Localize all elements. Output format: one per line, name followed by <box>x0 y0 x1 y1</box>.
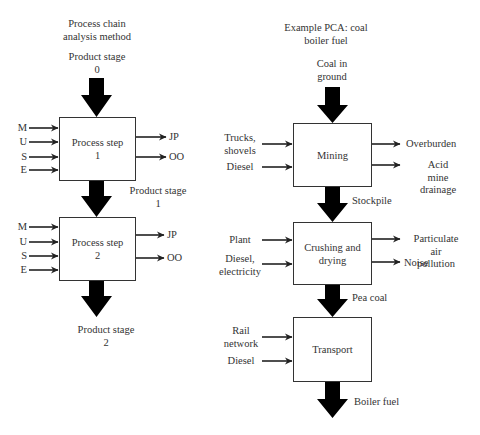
product-stage-2-label: Product stage 2 <box>78 324 135 349</box>
step2-input-s: S <box>21 250 27 263</box>
left-panel-title: Process chain analysis method <box>63 18 131 43</box>
crushing-input-plant: Plant <box>229 234 251 247</box>
boiler-fuel-label: Boiler fuel <box>354 396 399 409</box>
step2-output-arrows <box>135 235 164 258</box>
step1-input-e: E <box>21 164 27 177</box>
step2-input-e: E <box>21 264 27 277</box>
transport-input-arrows <box>262 337 292 361</box>
transport-input-rail-network: Rail network <box>224 325 258 350</box>
step1-output-arrows <box>135 137 166 157</box>
step1-input-m: M <box>18 122 27 135</box>
flow-arrow-stage2 <box>81 280 112 317</box>
stockpile-label: Stockpile <box>352 195 392 208</box>
crushing-output-noise: Noise <box>404 257 429 270</box>
mining-input-trucks-shovels: Trucks, shovels <box>224 132 256 157</box>
mining-output-acid-mine-drainage: Acid mine drainage <box>417 159 459 197</box>
process-step-1-label: Process step 1 <box>72 136 124 162</box>
product-stage-1-label: Product stage 1 <box>130 185 187 210</box>
step2-input-arrows <box>29 227 58 270</box>
flow-arrow-coal-in-ground <box>317 87 348 123</box>
coal-in-ground-label: Coal in ground <box>317 58 348 83</box>
flow-arrow-boiler-fuel <box>317 381 348 418</box>
crushing-output-arrows <box>371 239 400 262</box>
flow-arrow-stage1 <box>81 180 112 217</box>
process-step-1-box: Process step 1 <box>59 117 136 181</box>
flow-arrow-stockpile <box>317 186 348 222</box>
process-step-2-box: Process step 2 <box>59 217 136 281</box>
crushing-drying-box: Crushing and drying <box>293 222 372 285</box>
step1-input-arrows <box>29 128 58 170</box>
step2-output-jp: JP <box>167 229 177 242</box>
transport-input-diesel: Diesel <box>228 355 255 368</box>
pea-coal-label: Pea coal <box>352 292 387 305</box>
step1-input-s: S <box>21 151 27 164</box>
step2-output-oo: OO <box>167 252 182 265</box>
right-panel-title: Example PCA: coal boiler fuel <box>284 22 367 47</box>
step1-output-oo: OO <box>169 151 184 164</box>
flow-arrow-pea-coal <box>317 284 348 317</box>
mining-output-overburden: Overburden <box>406 138 456 151</box>
crushing-drying-label: Crushing and drying <box>304 241 360 267</box>
mining-label: Mining <box>317 149 348 162</box>
mining-input-arrows <box>262 144 292 167</box>
step2-input-u: U <box>19 236 27 249</box>
product-stage-0-label: Product stage 0 <box>69 51 126 76</box>
mining-box: Mining <box>293 123 372 187</box>
transport-box: Transport <box>293 317 372 382</box>
transport-label: Transport <box>312 343 352 356</box>
step2-input-m: M <box>18 221 27 234</box>
crushing-input-arrows <box>262 240 292 264</box>
mining-input-diesel: Diesel <box>227 161 254 174</box>
mining-output-arrows <box>371 144 400 165</box>
step1-input-u: U <box>19 136 27 149</box>
flow-arrow-stage0 <box>81 78 112 117</box>
step1-output-jp: JP <box>169 131 179 144</box>
crushing-input-diesel-electricity: Diesel, electricity <box>219 253 261 278</box>
process-step-2-label: Process step 2 <box>72 236 124 262</box>
